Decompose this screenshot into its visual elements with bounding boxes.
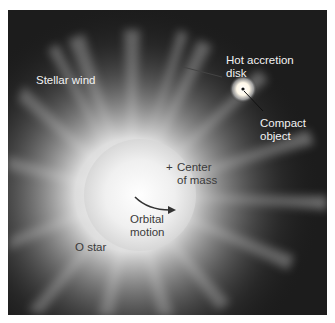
diagram-panel: Stellar wind Hot accretion disk Compact … [8,10,327,315]
orbital-motion-label-line2: motion [130,226,165,239]
hot-accretion-disk-label: Hot accretion disk [226,54,294,80]
o-star-label: O star [75,241,106,254]
compact-object-dot [241,87,244,90]
orbital-motion-label-line1: Orbital [130,213,165,226]
hot-accretion-disk-label-line2: disk [226,67,294,80]
orbital-motion-label: Orbital motion [130,213,165,239]
compact-object-label: Compact object [260,117,306,143]
compact-object-label-line1: Compact [260,117,306,130]
center-of-mass-label: Center of mass [177,161,217,187]
stellar-wind-label: Stellar wind [36,74,95,87]
center-of-mass-label-line2: of mass [177,174,217,187]
compact-object-label-line2: object [260,130,306,143]
center-of-mass-marker: + [166,161,173,174]
hot-accretion-disk-label-line1: Hot accretion [226,54,294,67]
center-of-mass-label-line1: Center [177,161,217,174]
